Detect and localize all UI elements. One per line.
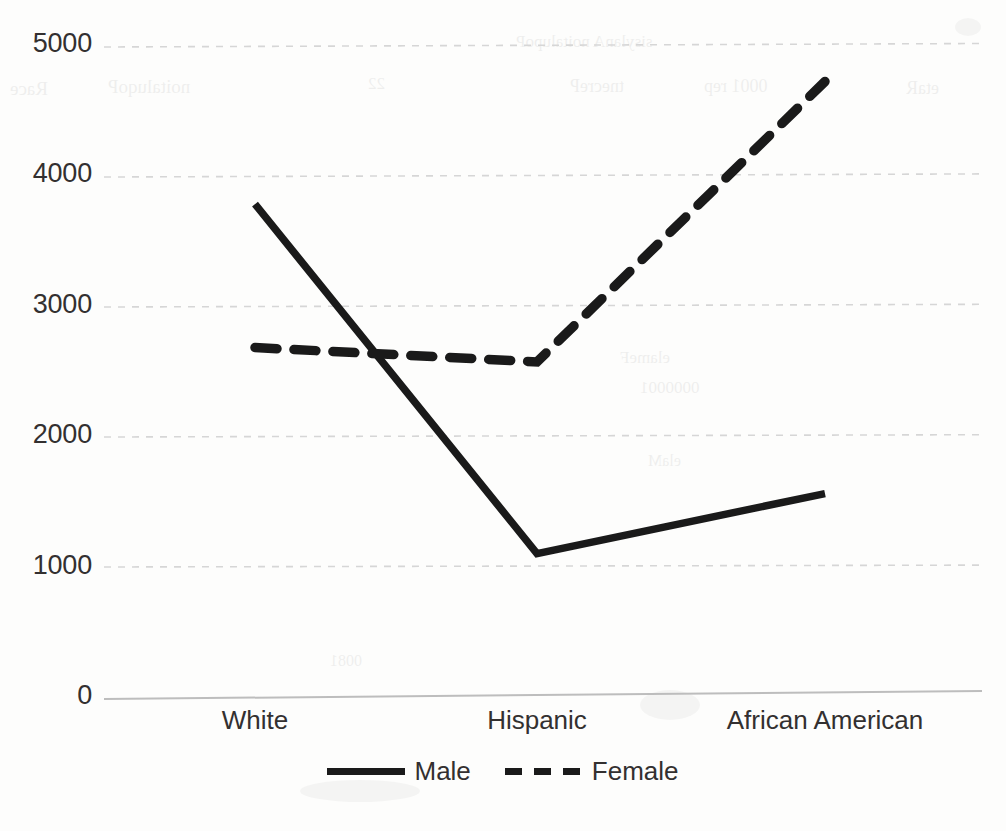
axis-baseline [104,691,982,699]
y-axis-tick-label: 1000 [0,552,92,579]
legend-label: Male [414,758,470,784]
gridline [104,44,982,48]
y-axis-tick-label: 2000 [0,421,92,448]
legend-item-male[interactable]: Male [327,758,470,784]
data-series-group [255,82,825,554]
gridline [104,174,982,177]
gridline [104,435,982,437]
legend-swatch-solid-line-icon [327,768,405,775]
x-axis-tick-label: White [95,707,415,733]
x-axis-tick-label: Hispanic [377,707,697,733]
x-axis-tick-label: African American [665,707,985,733]
series-line-female [255,82,825,362]
legend-label: Female [592,758,679,784]
gridline [104,304,982,307]
chart-legend: MaleFemale [0,758,1006,784]
y-axis-tick-label: 0 [0,682,92,709]
gridlines [104,44,982,568]
legend-swatch-dashed-line-icon [505,768,583,775]
zero-baseline [104,691,982,699]
y-axis-tick-label: 5000 [0,30,92,57]
chart-page: Race noitaluqoP 22 tnecreP 0001 rep etaR… [0,0,1006,831]
legend-item-female[interactable]: Female [505,758,679,784]
gridline [104,565,982,567]
series-line-male [255,204,825,553]
plot-area: 500040003000200010000 WhiteHispanicAfric… [0,0,1006,831]
y-axis-tick-label: 4000 [0,160,92,187]
y-axis-tick-label: 3000 [0,291,92,318]
